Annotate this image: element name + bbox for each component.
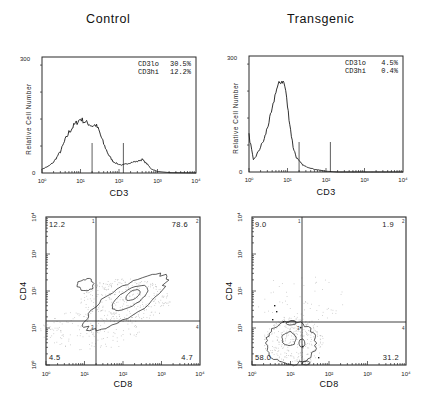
- density-contours: [77, 273, 169, 331]
- y-tick-label: 10³: [31, 250, 37, 259]
- x-tick-label: 10²: [119, 371, 128, 377]
- quadrant-ul-value: 12.2: [49, 220, 65, 229]
- x-axis-label: CD3: [316, 187, 335, 197]
- histogram-curve: [249, 81, 403, 172]
- event-dots: [40, 279, 170, 351]
- x-tick-label: 10³: [363, 371, 372, 377]
- stat-label: CD3hi: [138, 68, 159, 76]
- quadrant-number: 2: [402, 219, 405, 224]
- y-tick-label: 10³: [237, 250, 243, 259]
- y-tick-label: 10⁴: [31, 212, 37, 222]
- x-tick-label: 10⁴: [398, 177, 408, 183]
- x-tick-label: 10³: [153, 178, 162, 184]
- stat-value: 30.5%: [170, 60, 192, 68]
- y-tick-label: 10¹: [237, 324, 243, 333]
- y-axis-label: CD4: [224, 281, 234, 300]
- x-tick-label: 10⁰: [42, 371, 52, 377]
- x-tick-label: 10²: [115, 178, 124, 184]
- quadrant-ll-value: 58.0: [255, 353, 271, 362]
- x-tick-label: 10⁰: [248, 371, 258, 377]
- stat-label: CD3lo: [345, 59, 366, 67]
- stat-value: 12.2%: [170, 68, 192, 76]
- y-tick-label: 10²: [31, 287, 37, 296]
- y-tick-label: 10⁰: [237, 360, 243, 370]
- stat-label: CD3hi: [345, 67, 366, 75]
- histogram-curve: [42, 118, 196, 173]
- x-tick-label: 10⁴: [191, 178, 201, 184]
- control-cd3-histogram: 300010⁰10¹10²10³10⁴CD3Relative Cell Numb…: [20, 56, 201, 198]
- quadrant-number: 2: [196, 219, 199, 224]
- quadrant-ur-value: 78.6: [172, 220, 188, 229]
- x-axis-label: CD8: [113, 379, 132, 389]
- y-min-label: 0: [32, 170, 36, 176]
- x-tick-label: 10³: [360, 177, 369, 183]
- y-max-label: 300: [20, 56, 31, 62]
- quadrant-number: 1: [298, 219, 301, 224]
- y-axis-label: CD4: [18, 281, 28, 300]
- x-tick-label: 10⁴: [401, 371, 411, 377]
- y-max-label: 300: [227, 55, 238, 61]
- x-axis-label: CD3: [109, 188, 128, 198]
- x-axis-label: CD8: [319, 379, 338, 389]
- x-tick-label: 10¹: [76, 178, 85, 184]
- flow-cytometry-figure: 300010⁰10¹10²10³10⁴CD3Relative Cell Numb…: [0, 0, 424, 412]
- stat-label: CD3lo: [138, 60, 159, 68]
- x-tick-label: 10²: [322, 177, 331, 183]
- y-tick-label: 10⁰: [31, 360, 37, 370]
- y-tick-label: 10⁴: [237, 212, 243, 222]
- transgenic-cd3-histogram: 300010⁰10¹10²10³10⁴CD3Relative Cell Numb…: [227, 55, 408, 197]
- control-cd4-cd8-dotplot: 10⁰10¹10²10³10⁴10⁰10¹10²10³10⁴CD8CD412.2…: [18, 212, 205, 389]
- y-tick-label: 10²: [237, 287, 243, 296]
- stat-value: 0.4%: [381, 67, 399, 75]
- y-axis-label: Relative Cell Number: [25, 83, 32, 155]
- x-tick-label: 10¹: [286, 371, 295, 377]
- quadrant-number: 4: [402, 326, 405, 331]
- x-tick-label: 10¹: [283, 177, 292, 183]
- stat-value: 4.5%: [381, 59, 399, 67]
- x-tick-label: 10⁰: [245, 177, 255, 183]
- quadrant-lr-value: 31.2: [383, 353, 399, 362]
- transgenic-cd4-cd8-dotplot: 10⁰10¹10²10³10⁴10⁰10¹10²10³10⁴CD8CD49.01…: [224, 212, 411, 389]
- quadrant-ul-value: 9.0: [255, 220, 267, 229]
- quadrant-lr-value: 4.7: [181, 353, 193, 362]
- x-tick-label: 10¹: [80, 371, 89, 377]
- quadrant-ll-value: 4.5: [49, 353, 61, 362]
- x-tick-label: 10²: [325, 371, 334, 377]
- x-tick-label: 10³: [157, 371, 166, 377]
- quadrant-number: 4: [196, 325, 199, 330]
- x-tick-label: 10⁰: [38, 178, 48, 184]
- y-tick-label: 10¹: [31, 324, 37, 333]
- quadrant-ur-value: 1.9: [382, 220, 394, 229]
- y-axis-label: Relative Cell Number: [232, 82, 239, 154]
- x-tick-label: 10⁴: [195, 371, 205, 377]
- quadrant-number: 3: [297, 326, 300, 331]
- y-min-label: 0: [239, 169, 243, 175]
- quadrant-number: 1: [92, 219, 95, 224]
